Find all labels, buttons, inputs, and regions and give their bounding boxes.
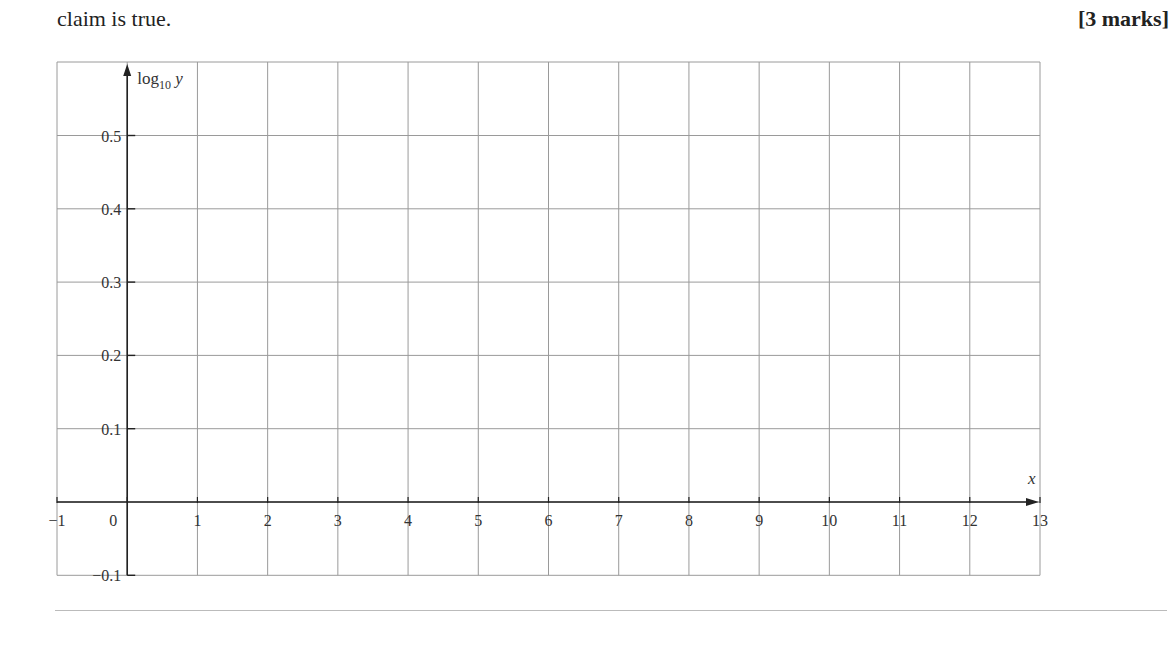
svg-text:log10 y: log10 y	[137, 69, 183, 92]
svg-text:10: 10	[821, 512, 837, 529]
svg-text:0: 0	[109, 512, 117, 529]
svg-text:4: 4	[404, 512, 412, 529]
svg-text:9: 9	[755, 512, 763, 529]
svg-text:0.3: 0.3	[101, 274, 121, 291]
svg-text:−1: −1	[48, 512, 65, 529]
svg-text:13: 13	[1032, 512, 1048, 529]
svg-text:0.5: 0.5	[101, 128, 121, 145]
svg-text:1: 1	[193, 512, 201, 529]
svg-text:8: 8	[685, 512, 693, 529]
blank-graph-grid[interactable]: −10123456789101112130.50.40.30.20.1−0.1l…	[0, 0, 1175, 650]
svg-text:12: 12	[962, 512, 978, 529]
svg-text:0.2: 0.2	[101, 347, 121, 364]
svg-text:5: 5	[474, 512, 482, 529]
svg-text:0.4: 0.4	[101, 201, 121, 218]
svg-text:x: x	[1027, 469, 1036, 488]
svg-text:−0.1: −0.1	[92, 567, 121, 584]
answer-line[interactable]	[55, 610, 1167, 611]
svg-text:3: 3	[334, 512, 342, 529]
svg-text:6: 6	[545, 512, 553, 529]
svg-text:7: 7	[615, 512, 623, 529]
svg-text:0.1: 0.1	[101, 421, 121, 438]
svg-text:2: 2	[264, 512, 272, 529]
svg-text:11: 11	[892, 512, 907, 529]
